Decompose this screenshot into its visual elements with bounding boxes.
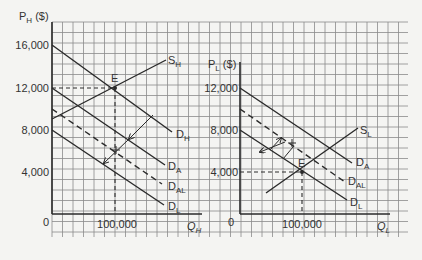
- label-DAL-left: DAL: [168, 180, 186, 195]
- left-y-tick-16000: 16,000: [15, 39, 49, 51]
- right-x-tick-100000: 100,000: [282, 218, 322, 230]
- right-y-tick-0: 0: [228, 216, 234, 228]
- right-midpoint-marker: [288, 139, 296, 147]
- right-y-tick-12000: 12,000: [204, 82, 238, 94]
- right-y-tick-8000: 8,000: [210, 124, 238, 136]
- left-midpoint-marker: [112, 146, 120, 154]
- left-y-tick-4000: 4,000: [21, 166, 49, 178]
- left-y-tick-0: 0: [43, 216, 49, 228]
- left-equilibrium-point: [113, 86, 117, 90]
- label-SH: SH: [168, 54, 181, 69]
- curve-DAL-left: [52, 109, 162, 184]
- label-DA-left: DA: [168, 160, 182, 175]
- curve-DA-left: [52, 88, 165, 165]
- label-DL-left: DL: [168, 200, 181, 215]
- left-chart: PH ($) 16,000 12,000 8,000 4,000 0 100,0…: [15, 10, 202, 235]
- left-y-axis-label: PH ($): [19, 10, 49, 25]
- right-chart: PL ($) 12,000 8,000 4,000 0 100,000 QL E…: [204, 58, 390, 235]
- curve-SH: [52, 60, 166, 119]
- label-DAL-right: DAL: [348, 175, 366, 190]
- left-y-tick-12000: 12,000: [15, 82, 49, 94]
- left-equilibrium-label: E: [111, 72, 118, 84]
- right-equilibrium-label: E: [298, 157, 305, 169]
- chart-canvas: PH ($) 16,000 12,000 8,000 4,000 0 100,0…: [0, 0, 422, 260]
- label-SL: SL: [360, 124, 372, 139]
- right-y-tick-4000: 4,000: [210, 166, 238, 178]
- right-equilibrium-point: [300, 170, 304, 174]
- right-shift-arrow-up-2: [283, 147, 293, 159]
- right-y-axis-label: PL ($): [208, 58, 236, 73]
- left-x-tick-100000: 100,000: [97, 218, 137, 230]
- curve-DL-left: [52, 130, 164, 205]
- left-y-tick-8000: 8,000: [21, 124, 49, 136]
